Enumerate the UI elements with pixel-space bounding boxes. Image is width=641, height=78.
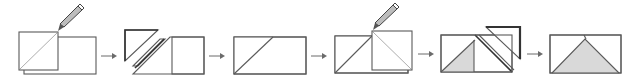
arrow-5-icon	[527, 51, 543, 57]
flying-geese-diagram	[0, 0, 641, 78]
step-2	[125, 30, 204, 74]
arrow-2-icon	[209, 53, 225, 59]
step-3	[234, 37, 306, 74]
pencil-icon	[373, 3, 399, 30]
step-5	[441, 27, 520, 72]
arrow-4-icon	[418, 51, 434, 57]
arrow-1-icon	[101, 53, 117, 59]
step-4	[335, 3, 412, 73]
arrow-3-icon	[311, 53, 327, 59]
step-6	[550, 35, 621, 73]
step-1	[19, 4, 96, 74]
gray-part	[172, 37, 204, 74]
pencil-icon	[58, 4, 84, 31]
goose-triangle	[552, 39, 619, 73]
trimmed-corner-triangle	[486, 27, 520, 59]
